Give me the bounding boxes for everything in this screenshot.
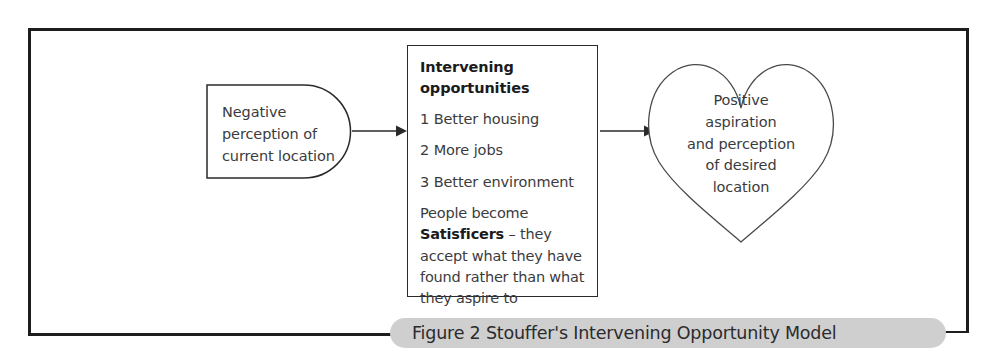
destination-line-3: and perception [687, 136, 795, 152]
destination-node: Positive aspiration and perception of de… [643, 56, 839, 246]
opportunities-title-line2: opportunities [420, 80, 529, 96]
opportunities-title: Intervening opportunities [420, 57, 587, 98]
arrow-right-icon [352, 121, 408, 141]
destination-line-5: location [713, 179, 770, 195]
frame-bottom-left-edge [28, 333, 394, 336]
satisficer-note-prefix: People become [420, 205, 528, 221]
frame-right-edge [966, 28, 969, 333]
destination-line-1: Positive [713, 92, 768, 108]
destination-line-2: aspiration [705, 114, 776, 130]
opportunities-title-line1: Intervening [420, 59, 514, 75]
figure-container: Negative perception of current location … [0, 0, 995, 360]
arrow-origin-to-opportunities [352, 121, 408, 145]
satisficer-term: Satisficers [420, 226, 504, 242]
intervening-opportunities-box: Intervening opportunities 1 Better housi… [407, 45, 598, 297]
destination-line-4: of desired [705, 157, 776, 173]
opportunity-item: 3 Better environment [420, 172, 587, 192]
figure-caption-text: Figure 2 Stouffer's Intervening Opportun… [390, 323, 836, 343]
opportunity-item: 1 Better housing [420, 109, 587, 129]
origin-node-label: Negative perception of current location [222, 101, 340, 167]
opportunity-item: 2 More jobs [420, 140, 587, 160]
origin-node: Negative perception of current location [206, 84, 352, 179]
destination-node-label: Positive aspiration and perception of de… [643, 90, 839, 199]
figure-caption-banner: Figure 2 Stouffer's Intervening Opportun… [390, 318, 946, 348]
frame-top-edge [28, 28, 969, 31]
frame-left-edge [28, 28, 31, 336]
satisficer-note: People become Satisficers – they accept … [420, 203, 587, 310]
